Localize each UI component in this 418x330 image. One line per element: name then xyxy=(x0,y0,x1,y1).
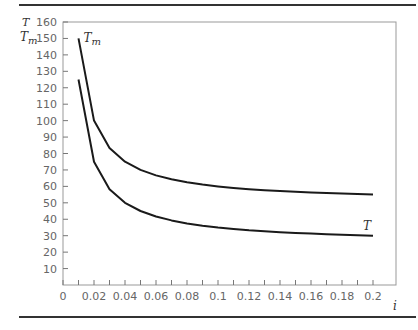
y-axis-label-tm: Tm xyxy=(20,30,38,46)
x-tick-label: 0.04 xyxy=(113,290,138,303)
y-tick-label: 140 xyxy=(36,49,57,62)
y-tick-label: 120 xyxy=(36,82,57,95)
series-lines xyxy=(79,38,374,235)
series-label-tm: Tm xyxy=(84,31,102,47)
y-tick-label: 130 xyxy=(36,65,57,78)
x-tick-label: 0.14 xyxy=(268,290,293,303)
plot-frame xyxy=(63,22,396,285)
x-axis: 00.020.040.060.080.10.120.140.160.180.2 xyxy=(60,280,382,303)
y-tick-label: 40 xyxy=(43,213,57,226)
chart: 102030405060708090100110120130140150160 … xyxy=(0,0,418,330)
x-tick-label: 0.2 xyxy=(364,290,382,303)
y-tick-label: 70 xyxy=(43,164,57,177)
series-line-t xyxy=(79,80,374,236)
y-tick-label: 100 xyxy=(36,115,57,128)
x-tick-label: 0.16 xyxy=(299,290,324,303)
x-tick-label: 0.08 xyxy=(175,290,200,303)
y-tick-label: 80 xyxy=(43,148,57,161)
series-line-t-m xyxy=(79,38,374,194)
x-tick-label: 0.12 xyxy=(237,290,262,303)
series-label-t: T xyxy=(363,219,372,233)
y-tick-label: 90 xyxy=(43,131,57,144)
x-tick-label: 0.18 xyxy=(330,290,355,303)
x-tick-label: 0.1 xyxy=(209,290,227,303)
y-tick-label: 110 xyxy=(36,98,57,111)
y-tick-label: 20 xyxy=(43,246,57,259)
y-tick-label: 60 xyxy=(43,180,57,193)
y-tick-label: 150 xyxy=(36,32,57,45)
x-tick-label: 0.06 xyxy=(144,290,169,303)
x-tick-label: 0 xyxy=(60,290,67,303)
x-tick-label: 0.02 xyxy=(82,290,107,303)
x-axis-label: i xyxy=(393,299,397,313)
axis-labels: TmTTTmi xyxy=(20,16,397,313)
y-tick-label: 10 xyxy=(43,263,57,276)
y-tick-label: 50 xyxy=(43,197,57,210)
y-tick-label: 30 xyxy=(43,230,57,243)
y-tick-label: 160 xyxy=(36,16,57,29)
y-axis-label-t: T xyxy=(22,16,31,29)
